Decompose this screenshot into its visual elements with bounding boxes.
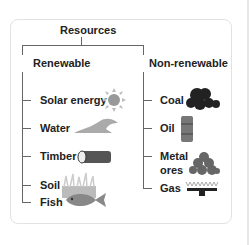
item-timber: Timber xyxy=(40,150,76,162)
branch-left xyxy=(22,45,23,55)
connector xyxy=(22,100,31,101)
item-metal-ores-line1: Metal xyxy=(160,150,188,162)
item-water: Water xyxy=(40,122,70,134)
non-renewable-spine xyxy=(143,72,144,189)
item-fish: Fish xyxy=(40,196,63,208)
gas-burner-icon xyxy=(185,181,219,197)
coal-icon xyxy=(185,85,221,111)
page-edge xyxy=(247,0,249,245)
root-branch xyxy=(22,45,144,46)
log-icon xyxy=(77,150,113,164)
item-metal-ores-line2: ores xyxy=(160,164,183,176)
connector xyxy=(22,202,31,203)
item-oil: Oil xyxy=(160,122,175,134)
ore-pile-icon xyxy=(188,150,220,176)
connector xyxy=(22,128,31,129)
item-soil: Soil xyxy=(40,179,60,191)
root-label: Resources xyxy=(60,24,116,36)
item-solar-energy: Solar energy xyxy=(40,94,107,106)
connector xyxy=(143,188,152,189)
non-renewable-heading: Non-renewable xyxy=(149,57,228,69)
renewable-heading: Renewable xyxy=(33,57,90,69)
connector xyxy=(22,156,31,157)
item-gas: Gas xyxy=(160,182,181,194)
sun-icon xyxy=(102,88,126,112)
connector xyxy=(143,156,152,157)
item-coal: Coal xyxy=(160,94,184,106)
connector xyxy=(143,100,152,101)
fish-icon xyxy=(64,191,108,209)
renewable-spine xyxy=(22,72,23,203)
connector xyxy=(22,185,31,186)
oil-barrel-icon xyxy=(180,115,194,143)
wave-icon xyxy=(72,117,118,135)
branch-right xyxy=(143,45,144,55)
connector xyxy=(143,128,152,129)
